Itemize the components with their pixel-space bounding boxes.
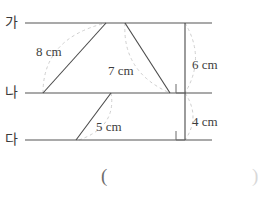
- right-angle-mark-da: [176, 131, 185, 140]
- right-angle-marks: [176, 84, 185, 140]
- geometry-figure: 가 나 다 8 cm 7 cm 5 cm 6 cm 4 cm ( ): [0, 0, 262, 197]
- figure-canvas: [0, 0, 262, 197]
- dimension-label-8cm: 8 cm: [36, 45, 62, 58]
- parallel-line-label-ga: 가: [5, 15, 18, 29]
- dimension-label-5cm: 5 cm: [96, 120, 122, 133]
- segment-top-right: [125, 23, 170, 93]
- parallel-line-label-da: 다: [5, 132, 18, 146]
- dimension-label-4cm: 4 cm: [192, 115, 218, 128]
- parallel-line-label-na: 나: [5, 85, 18, 99]
- dimension-label-7cm: 7 cm: [108, 64, 134, 77]
- answer-close-paren: ): [252, 166, 258, 185]
- answer-open-paren: (: [101, 166, 107, 185]
- right-angle-mark-na: [176, 84, 185, 93]
- dimension-label-6cm: 6 cm: [192, 58, 218, 71]
